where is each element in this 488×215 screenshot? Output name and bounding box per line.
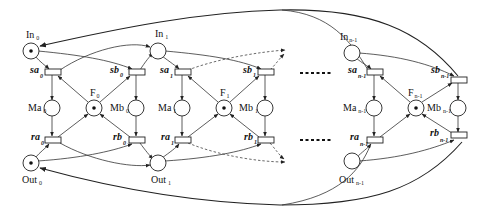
place-out-1 [150,155,166,171]
label-f-n1: Fn-1 [408,87,423,99]
token-icon [29,161,33,165]
label-ra-0: ra0 [31,131,44,146]
label-mb-0: Mb0 [110,102,129,114]
label-in-n1: Inn-1 [340,31,357,43]
transition-sb-0 [129,69,145,75]
label-sa-n1: san-1 [347,64,366,79]
place-ma-n1 [366,100,382,116]
transition-sb-1 [258,69,274,75]
label-sa-1: sa1 [159,64,173,79]
token-icon [92,106,96,110]
place-out-n1 [344,153,360,169]
label-ma-n1: Man-1 [343,102,366,114]
label-out-n1: Outn-1 [339,174,364,186]
label-out-0: Out0 [22,174,42,186]
petri-net-diagram: In0 In1 Inn-1 sa0 sb0 sa1 sb1 san-1 sbn-… [0,0,488,215]
label-f-1: F1 [220,87,230,99]
place-mb-n1 [450,100,466,116]
transition-rb-1 [258,137,274,143]
place-ma-1 [174,100,190,116]
label-ma-0: Ma0 [28,102,46,114]
label-sb-0: sb0 [109,64,123,78]
transition-ra-n1 [367,137,383,143]
token-icon [222,106,226,110]
place-ma-0 [44,100,60,116]
place-mb-1 [257,100,273,116]
place-in-n1 [344,45,360,61]
transition-sa-1 [175,69,191,75]
place-mb-0 [128,100,144,116]
label-rb-0: rb0 [113,131,126,146]
transition-sb-n1 [451,77,467,83]
transitions [45,69,467,143]
label-out-1: Out1 [151,174,171,186]
label-rb-n1: rbn-1 [430,127,448,143]
label-ra-1: ra1 [161,131,174,146]
transition-ra-1 [175,137,191,143]
label-in-1: In1 [155,28,168,40]
label-f-0: F0 [90,87,100,99]
transition-sa-0 [45,69,61,75]
arc-bottom-to-out0 [40,142,462,205]
transition-rb-n1 [451,132,467,138]
label-ra-n1: ran-1 [350,131,368,147]
label-ma-1: Ma1 [158,102,176,114]
transition-sa-n1 [367,69,383,75]
label-in-0: In0 [26,29,39,41]
label-sb-n1: sbn-1 [430,64,449,79]
place-in-1 [150,43,166,59]
label-sa-0: sa0 [29,64,43,79]
label-mb-1: Mb1 [239,102,258,114]
token-icon [414,106,418,110]
label-rb-1: rb1 [244,131,257,145]
transition-rb-0 [129,137,145,143]
token-icon [29,49,33,53]
transition-ra-0 [45,137,61,143]
label-mb-n1: Mbn-1 [427,102,451,114]
